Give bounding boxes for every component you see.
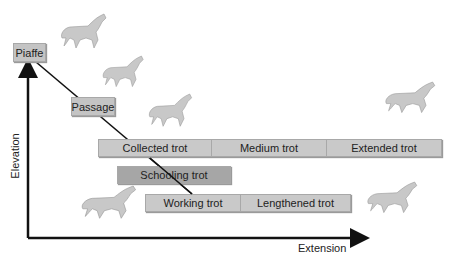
collected-trot-cell: Collected trot bbox=[99, 140, 212, 156]
horse-icon bbox=[386, 82, 435, 113]
diagram-lines bbox=[0, 0, 452, 268]
horse-icon bbox=[149, 94, 191, 126]
horse-icon bbox=[368, 182, 417, 213]
lengthened-trot-cell: Lengthened trot bbox=[241, 195, 350, 211]
horse-icon bbox=[82, 186, 135, 218]
bottom-row: Working trot Lengthened trot bbox=[145, 194, 351, 212]
y-axis-label: Elevation bbox=[9, 133, 21, 178]
x-axis-label: Extension bbox=[298, 242, 346, 254]
extended-trot-cell: Extended trot bbox=[327, 140, 441, 156]
horse-icon bbox=[103, 56, 143, 87]
piaffe-box: Piaffe bbox=[13, 43, 46, 62]
horse-icon bbox=[61, 14, 106, 48]
top-row: Collected trot Medium trot Extended trot bbox=[98, 139, 442, 157]
working-trot-cell: Working trot bbox=[146, 195, 241, 211]
passage-box: Passage bbox=[71, 97, 115, 116]
medium-trot-cell: Medium trot bbox=[212, 140, 327, 156]
schooling-trot-box: Schooling trot bbox=[117, 166, 231, 184]
